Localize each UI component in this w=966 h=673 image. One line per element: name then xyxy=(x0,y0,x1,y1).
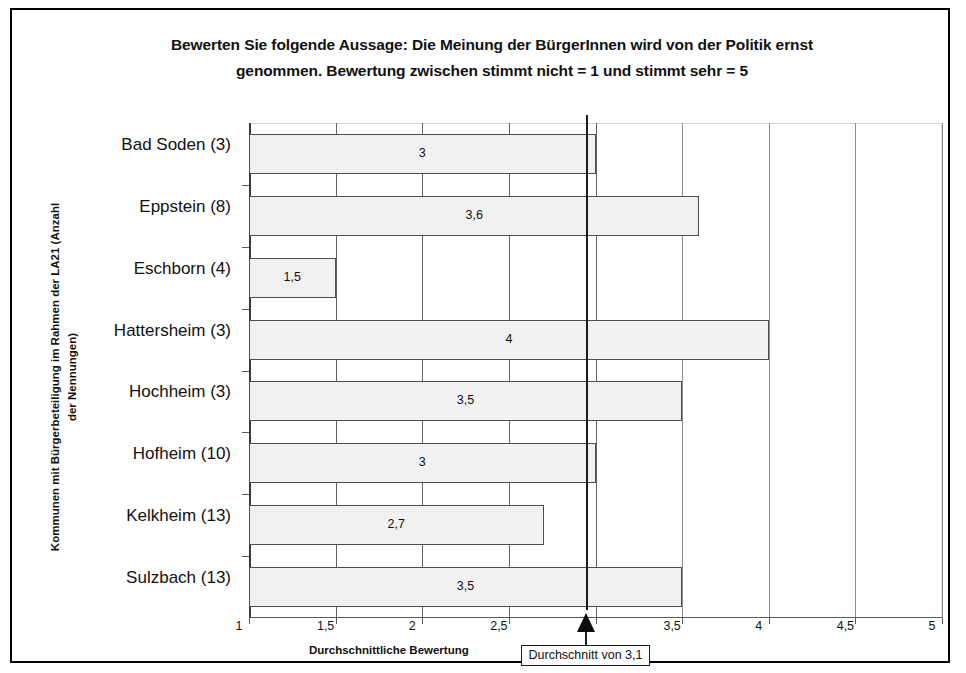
value-tick-label: 1 xyxy=(236,619,243,633)
value-tick xyxy=(769,618,770,624)
category-label: Sulzbach (13) xyxy=(3,568,231,588)
bar-value-label: 3,5 xyxy=(457,579,474,593)
category-tick xyxy=(242,432,249,433)
value-tick-label: 4 xyxy=(755,619,762,633)
chart-title: Bewerten Sie folgende Aussage: Die Meinu… xyxy=(92,32,892,84)
category-tick xyxy=(242,494,249,495)
y-axis-title-line-1: Kommunen mit Bürgerbeteiligung im Rahmen… xyxy=(47,162,64,592)
bar-value-label: 3 xyxy=(419,146,426,160)
gridline-4 xyxy=(769,123,770,618)
category-label: Hofheim (10) xyxy=(3,444,231,464)
category-tick xyxy=(242,247,249,248)
category-label: Hochheim (3) xyxy=(3,382,231,402)
value-tick xyxy=(596,618,597,624)
average-marker-line xyxy=(586,115,588,610)
bar-value-label: 3 xyxy=(419,455,426,469)
category-tick xyxy=(242,371,249,372)
y-axis-title-line-2: der Nennungen) xyxy=(64,162,81,592)
plot-area: 33,61,543,532,73,5 xyxy=(249,123,942,618)
value-tick-label: 2,5 xyxy=(490,619,507,633)
chart-title-line-1: Bewerten Sie folgende Aussage: Die Meinu… xyxy=(92,32,892,58)
bar-value-label: 2,7 xyxy=(388,517,405,531)
value-tick xyxy=(336,618,337,624)
category-tick xyxy=(242,309,249,310)
average-annotation-box: Durchschnitt von 3,1 xyxy=(521,645,651,666)
category-tick xyxy=(242,185,249,186)
gridline-5 xyxy=(942,123,943,618)
value-tick-label: 1,5 xyxy=(317,619,334,633)
value-tick xyxy=(682,618,683,624)
value-tick-label: 3,5 xyxy=(663,619,680,633)
value-tick xyxy=(249,618,250,624)
average-marker-arrow-icon xyxy=(577,613,595,632)
category-tick xyxy=(242,556,249,557)
y-axis-title: Kommunen mit Bürgerbeteiligung im Rahmen… xyxy=(47,162,81,592)
bar-value-label: 1,5 xyxy=(284,270,301,284)
bar-value-label: 3,5 xyxy=(457,393,474,407)
chart-screenshot: Bewerten Sie folgende Aussage: Die Meinu… xyxy=(0,0,966,673)
value-tick-label: 2 xyxy=(409,619,416,633)
value-tick-label: 4,5 xyxy=(837,619,854,633)
gridline-4-5 xyxy=(855,123,856,618)
value-tick xyxy=(422,618,423,624)
category-label: Eschborn (4) xyxy=(3,259,231,279)
value-tick xyxy=(509,618,510,624)
x-axis-label: Durchschnittliche Bewertung xyxy=(309,644,469,656)
category-label: Hattersheim (3) xyxy=(3,321,231,341)
value-tick xyxy=(855,618,856,624)
value-tick-label: 5 xyxy=(929,619,936,633)
category-label: Bad Soden (3) xyxy=(3,135,231,155)
category-label: Kelkheim (13) xyxy=(3,506,231,526)
bar-value-label: 3,6 xyxy=(466,208,483,222)
average-marker-stem xyxy=(585,632,587,646)
category-label: Eppstein (8) xyxy=(3,197,231,217)
value-tick xyxy=(942,618,943,624)
chart-frame: Bewerten Sie folgende Aussage: Die Meinu… xyxy=(10,8,950,663)
chart-title-line-2: genommen. Bewertung zwischen stimmt nich… xyxy=(92,58,892,84)
bar-value-label: 4 xyxy=(505,332,512,346)
